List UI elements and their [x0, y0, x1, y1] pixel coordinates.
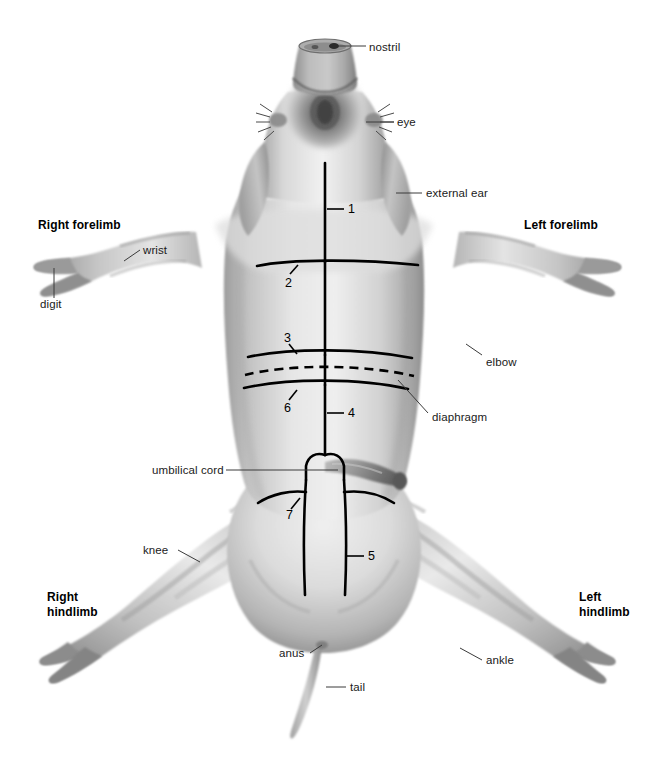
incision-number-2: 2 [285, 276, 292, 291]
label-external-ear: external ear [426, 186, 488, 200]
label-eye: eye [397, 115, 416, 129]
leader-ankle [460, 648, 482, 660]
label-elbow: elbow [486, 355, 517, 369]
label-ankle: ankle [486, 653, 514, 667]
nostril-opening [329, 43, 339, 49]
incision-number-4: 4 [348, 406, 355, 421]
label-right-hindlimb: Right hindlimb [47, 590, 98, 619]
label-knee: knee [143, 543, 168, 557]
incision-number-7: 7 [286, 508, 293, 523]
label-digit: digit [40, 297, 62, 311]
label-umbilical-cord: umbilical cord [152, 463, 224, 477]
label-tail: tail [350, 680, 365, 694]
pig-body-group [34, 39, 621, 739]
right-forelimb-shape [34, 232, 202, 296]
label-nostril: nostril [369, 40, 400, 54]
left-forelimb-shape [453, 232, 621, 296]
figure-canvas: nostril eye external ear Right forelimb … [0, 0, 655, 765]
incision-number-3: 3 [284, 331, 291, 346]
label-left-forelimb: Left forelimb [524, 218, 598, 233]
label-left-hindlimb: Left hindlimb [579, 590, 630, 619]
label-anus: anus [279, 646, 304, 660]
snout-shape [292, 39, 358, 96]
incision-number-6: 6 [284, 401, 291, 416]
fetal-pig-illustration [0, 0, 655, 765]
label-wrist: wrist [143, 243, 167, 257]
incision-number-5: 5 [368, 549, 375, 564]
leader-elbow [466, 344, 482, 355]
label-right-forelimb: Right forelimb [38, 218, 121, 233]
label-diaphragm: diaphragm [432, 410, 487, 424]
incision-number-1: 1 [348, 202, 355, 217]
